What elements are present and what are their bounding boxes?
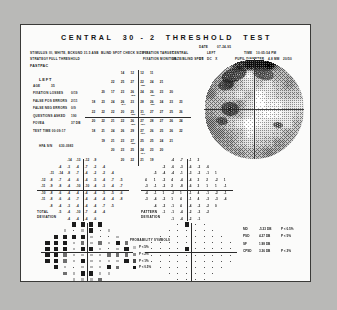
pd-symbol-normal	[195, 230, 196, 231]
pd-symbol-normal	[169, 267, 170, 268]
total-deviation-value: -2	[94, 172, 97, 175]
index-value: 3.36 DB	[259, 250, 270, 253]
threshold-value: 24	[160, 140, 163, 143]
td-symbol-defect	[90, 260, 92, 262]
td-symbol-defect	[81, 235, 85, 239]
threshold-value: 22	[101, 120, 104, 123]
pd-symbol-normal	[177, 230, 178, 231]
threshold-value: 20	[111, 149, 114, 152]
total-deviation-value: -4	[67, 179, 70, 182]
td-symbol-defect	[124, 259, 128, 263]
total-deviation-value: -10	[85, 185, 89, 188]
pattern-deviation-value: -5	[154, 172, 157, 175]
td-symbol-defect	[116, 236, 118, 238]
td-symbol-defect	[99, 254, 101, 256]
td-symbol-defect	[63, 272, 66, 275]
pattern-deviation-value: -2	[215, 179, 218, 182]
td-symbol-defect	[89, 222, 93, 226]
pattern-deviation-value: -1	[171, 205, 174, 208]
pattern-deviation-value: -1	[171, 211, 174, 214]
pd-symbol-normal	[195, 255, 196, 256]
index-value: 4.27 DB	[259, 235, 270, 238]
total-deviation-value: -4	[85, 198, 88, 201]
td-symbol-defect	[73, 272, 75, 274]
pattern-deviation-value: -1	[180, 172, 183, 175]
threshold-numeric-grid: 1412121122252722242120172326242623201823…	[83, 67, 193, 167]
pd-symbol-normal	[186, 279, 187, 280]
threshold-retest-value: (25)	[141, 85, 145, 88]
parameter-value: 37 DB	[71, 122, 81, 125]
threshold-value: 23	[121, 140, 124, 143]
pattern-deviation-value: -1	[189, 198, 192, 201]
pd-symbol-normal	[212, 261, 213, 262]
total-deviation-value: -4	[94, 205, 97, 208]
td-symbol-defect	[89, 228, 93, 232]
serial-value: 630-0983	[59, 145, 73, 148]
pattern-deviation-value: -3	[215, 198, 218, 201]
pd-symbol-normal	[151, 261, 152, 262]
pd-symbol-normal	[186, 261, 187, 262]
threshold-value: 22	[121, 120, 124, 123]
td-symbol-defect	[108, 260, 110, 262]
pd-symbol-normal	[204, 236, 205, 237]
threshold-value: 20	[101, 91, 104, 94]
total-deviation-value: -5	[94, 179, 97, 182]
threshold-value: 23	[121, 149, 124, 152]
pattern-deviation-value: -1	[189, 159, 192, 162]
pd-symbol-normal	[160, 248, 161, 249]
parameter-label: FALSE NEG ERRORS	[33, 107, 67, 110]
td-symbol-defect	[81, 247, 85, 251]
pattern-deviation-value: -3	[206, 198, 209, 201]
threshold-value: 23	[179, 101, 182, 104]
strategy-value: FULL THRESHOLD	[49, 58, 80, 61]
pattern-deviation-probability-map	[143, 221, 239, 283]
index-name: MD	[243, 228, 248, 231]
pattern-deviation-value: 1	[215, 185, 217, 188]
td-symbol-defect	[81, 278, 83, 280]
threshold-value: 25	[131, 149, 134, 152]
threshold-value: 22	[131, 159, 134, 162]
pattern-deviation-value: 1	[206, 185, 208, 188]
threshold-value: 23	[150, 149, 153, 152]
pd-symbol-normal	[204, 248, 205, 249]
threshold-value: 20	[160, 149, 163, 152]
index-name: PSD	[243, 235, 249, 238]
td-symbol-defect	[81, 229, 83, 231]
pattern-deviation-value: -1	[206, 172, 209, 175]
total-deviation-value: -6	[59, 198, 62, 201]
td-symbol-defect	[63, 247, 67, 251]
total-deviation-value: -4	[59, 205, 62, 208]
total-deviation-value: -4	[85, 192, 88, 195]
pd-symbol-normal	[212, 273, 213, 274]
total-deviation-value: -5	[59, 211, 62, 214]
parameter-value: 0/19	[71, 92, 78, 95]
pattern-deviation-value: -4	[171, 159, 174, 162]
threshold-value: 25	[150, 140, 153, 143]
pattern-deviation-value: -2	[206, 205, 209, 208]
page-title: CENTRAL 30 - 2 THRESHOLD TEST	[21, 34, 312, 41]
pd-symbol-normal	[160, 267, 161, 268]
age-label: AGE	[33, 85, 40, 88]
pattern-deviation-value: -2	[189, 211, 192, 214]
threshold-value: 21	[111, 120, 114, 123]
pattern-deviation-value: -2	[198, 205, 201, 208]
pd-symbol-normal	[177, 236, 178, 237]
pattern-deviation-value: -2	[163, 185, 166, 188]
index-name: CPSD	[243, 250, 252, 253]
pattern-deviation-value: -4	[189, 179, 192, 182]
total-deviation-value: -11	[50, 172, 54, 175]
threshold-value: 26	[179, 111, 182, 114]
pd-symbol-normal	[160, 261, 161, 262]
threshold-value: 19	[101, 140, 104, 143]
pattern-deviation-value: 1	[180, 192, 182, 195]
probability-legend-label: P < 2%	[139, 253, 149, 256]
pattern-deviation-value: 1	[224, 179, 226, 182]
total-deviation-value: -5	[120, 179, 123, 182]
index-name: SF	[243, 243, 247, 246]
parameter-label: TEST TIME 00:09:17	[33, 130, 66, 133]
pd-symbol-normal	[195, 224, 196, 225]
td-symbol-defect	[99, 272, 101, 274]
pd-symbol-normal	[186, 267, 187, 268]
total-deviation-value: -10	[76, 211, 80, 214]
threshold-value: 28	[140, 101, 143, 104]
